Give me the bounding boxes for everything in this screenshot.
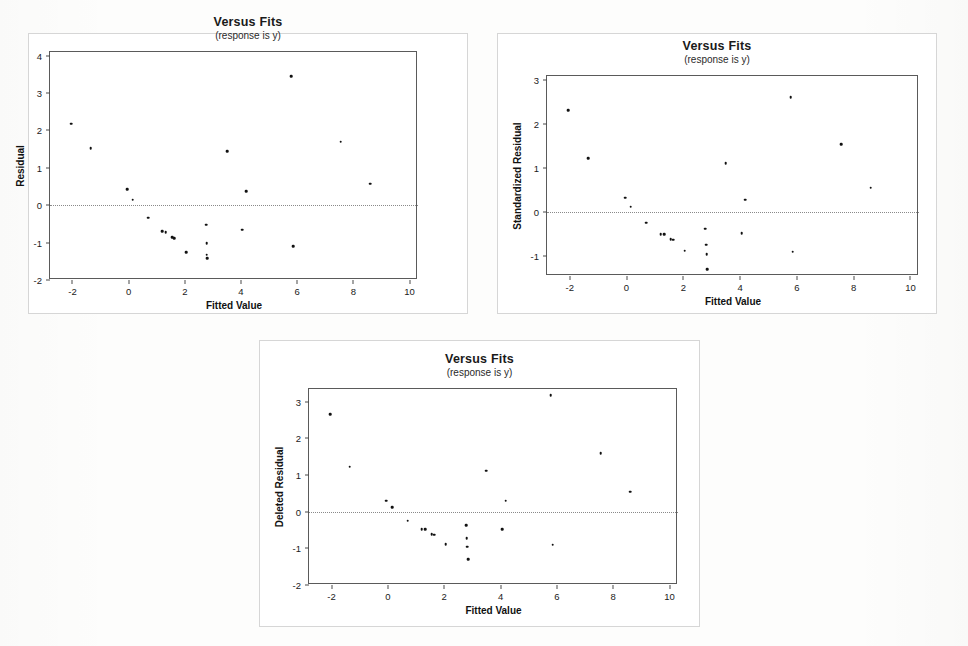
y-tick-label: -2: [293, 580, 305, 591]
y-tick-label: 3: [534, 74, 543, 85]
data-point: [424, 528, 427, 531]
x-tick-label: 0: [385, 591, 390, 602]
y-tick-mark: [543, 167, 547, 168]
x-tick-mark: [387, 585, 388, 589]
x-tick-label: 10: [664, 591, 675, 602]
y-tick-label: 2: [296, 433, 305, 444]
data-point: [241, 228, 244, 231]
data-point: [705, 243, 708, 246]
x-tick-label: 2: [681, 282, 686, 293]
data-point: [587, 157, 590, 160]
data-point: [391, 506, 394, 509]
x-tick-label: 8: [611, 591, 616, 602]
y-tick-mark: [543, 79, 547, 80]
data-point: [89, 147, 92, 150]
data-point: [869, 186, 872, 189]
data-point: [406, 520, 409, 523]
y-tick-mark: [46, 93, 50, 94]
x-tick-mark: [353, 280, 354, 284]
y-tick-label: 1: [534, 162, 543, 173]
x-tick-mark: [331, 585, 332, 589]
data-point: [132, 198, 135, 201]
x-tick-mark: [569, 276, 570, 280]
y-axis-label: Residual: [15, 145, 26, 187]
x-tick-mark: [740, 276, 741, 280]
y-tick-mark: [305, 585, 309, 586]
y-tick-label: 1: [296, 470, 305, 481]
x-tick-mark: [683, 276, 684, 280]
x-tick-label: 8: [851, 282, 856, 293]
data-point: [465, 524, 468, 527]
data-point: [385, 499, 388, 502]
y-tick-label: 3: [37, 88, 46, 99]
plot-frame: -2-101234-20246810Fitted ValueResidual: [49, 51, 417, 279]
y-tick-mark: [305, 511, 309, 512]
data-point: [433, 534, 436, 537]
data-point: [465, 537, 468, 540]
y-tick-mark: [543, 211, 547, 212]
data-point: [444, 543, 447, 546]
data-point: [840, 143, 843, 146]
x-tick-label: 6: [554, 591, 559, 602]
x-tick-label: 4: [498, 591, 503, 602]
y-tick-label: 0: [534, 206, 543, 217]
y-tick-mark: [46, 55, 50, 56]
data-point: [164, 231, 167, 234]
x-tick-mark: [409, 280, 410, 284]
data-point: [292, 245, 295, 248]
plot-frame: -2-10123-20246810Fitted ValueDeleted Res…: [308, 388, 677, 584]
data-point: [245, 190, 248, 193]
y-tick-label: 0: [37, 200, 46, 211]
y-tick-label: -1: [293, 543, 305, 554]
x-tick-label: 8: [351, 286, 356, 297]
data-point: [369, 182, 372, 185]
data-point: [466, 545, 469, 548]
y-axis-label: Deleted Residual: [274, 447, 285, 528]
data-point: [485, 469, 488, 472]
x-tick-mark: [556, 585, 557, 589]
x-tick-mark: [500, 585, 501, 589]
x-tick-label: 2: [182, 286, 187, 297]
x-axis-label: Fitted Value: [705, 296, 761, 307]
data-point: [659, 233, 662, 236]
y-tick-mark: [46, 167, 50, 168]
data-point: [185, 251, 188, 254]
x-tick-label: 10: [404, 286, 415, 297]
y-tick-mark: [305, 548, 309, 549]
x-tick-label: 4: [737, 282, 742, 293]
data-point: [706, 268, 709, 271]
data-point: [339, 140, 342, 143]
y-tick-mark: [543, 123, 547, 124]
data-point: [683, 250, 686, 253]
data-point: [549, 394, 552, 397]
y-tick-label: -1: [34, 237, 46, 248]
data-point: [789, 96, 792, 99]
y-tick-mark: [543, 256, 547, 257]
chart-panel-chart-residual: Versus Fits(response is y)-2-101234-2024…: [28, 33, 468, 314]
x-tick-label: 6: [794, 282, 799, 293]
data-point: [329, 413, 332, 416]
x-tick-label: 10: [905, 282, 916, 293]
data-point: [599, 452, 602, 455]
y-tick-label: 0: [296, 506, 305, 517]
y-tick-label: 4: [37, 50, 46, 61]
data-point: [147, 216, 150, 219]
x-tick-mark: [241, 280, 242, 284]
x-tick-mark: [796, 276, 797, 280]
x-tick-mark: [669, 585, 670, 589]
chart-title: Versus Fits: [260, 352, 699, 366]
zero-reference-line: [547, 212, 919, 213]
data-point: [629, 205, 632, 208]
data-point: [672, 239, 675, 242]
chart-title: Versus Fits: [498, 39, 936, 53]
x-tick-label: 4: [238, 286, 243, 297]
x-tick-mark: [613, 585, 614, 589]
y-tick-mark: [305, 401, 309, 402]
data-point: [744, 198, 747, 201]
data-point: [173, 237, 176, 240]
data-point: [704, 227, 707, 230]
data-point: [567, 109, 570, 112]
x-tick-mark: [184, 280, 185, 284]
x-tick-mark: [910, 276, 911, 280]
data-point: [791, 250, 794, 253]
